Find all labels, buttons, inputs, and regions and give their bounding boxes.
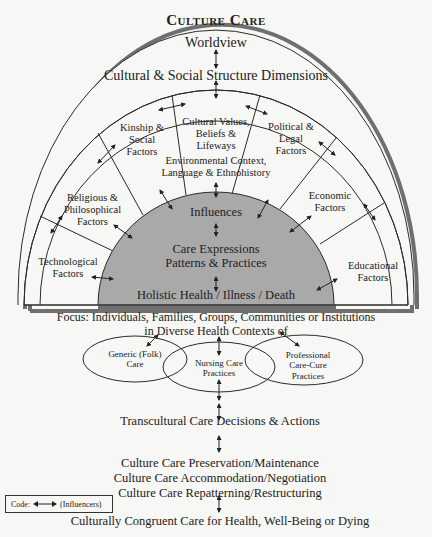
factor-political: Political & Legal Factors <box>256 121 326 157</box>
worldview-label: Worldview <box>0 35 432 51</box>
influences-label: Influences <box>0 205 432 219</box>
legend-box: Code: (Influencers) <box>5 495 113 513</box>
factor-kinship: Kinship & Social Factors <box>112 122 172 158</box>
legend-meaning: (Influencers) <box>60 500 101 509</box>
generic-care-label: Generic (Folk) Care <box>95 349 175 370</box>
decisions-label: Transcultural Care Decisions & Actions <box>0 414 432 428</box>
double-arrow-icon <box>33 500 57 508</box>
diagram-title: Culture Care <box>0 12 432 29</box>
mode-accommodation: Culture Care Accommodation/Negotiation <box>0 471 432 486</box>
nursing-care-label: Nursing Care Practices <box>179 358 259 379</box>
outcome-label: Culturally Congruent Care for Health, We… <box>0 514 432 528</box>
holistic-health-label: Holistic Health / Illness / Death <box>0 288 432 302</box>
legend-code-label: Code: <box>11 500 30 509</box>
factor-cultural-values: Cultural Values, Beliefs & Lifeways <box>172 116 260 152</box>
professional-care-label: Professional Care-Cure Practices <box>268 350 348 381</box>
focus-label: Focus: Individuals, Families, Groups, Co… <box>0 311 432 339</box>
mode-preservation: Culture Care Preservation/Maintenance <box>0 456 432 471</box>
care-expressions-label: Care Expressions Patterns & Practices <box>0 242 432 271</box>
dimensions-label: Cultural & Social Structure Dimensions <box>0 68 432 84</box>
environmental-context: Environmental Context, Language & Ethnoh… <box>126 155 306 179</box>
